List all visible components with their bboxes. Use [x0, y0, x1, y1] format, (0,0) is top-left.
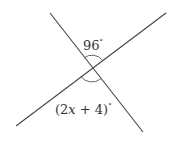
top-angle-label: 96°	[83, 38, 103, 53]
bottom-angle-arc	[81, 77, 101, 83]
bottom-angle-label: (2x + 4)°	[55, 102, 112, 117]
intersecting-lines-diagram: 96° (2x + 4)°	[0, 0, 175, 141]
